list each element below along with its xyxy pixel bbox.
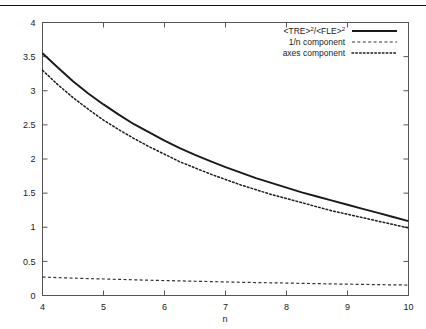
x-tick-label: 8: [284, 302, 289, 312]
x-tick-label: 6: [162, 302, 167, 312]
page-top-divider: [0, 5, 426, 6]
line-chart: 00.511.522.533.54 45678910 n <TRE>2/<FLE…: [0, 10, 426, 329]
y-tick-label: 4: [30, 18, 35, 28]
y-tick-label: 1: [30, 222, 35, 232]
legend-label-axes-component: axes component: [283, 48, 346, 58]
x-axis-title: n: [222, 314, 227, 324]
y-tick-label: 3.5: [23, 52, 36, 62]
y-tick-label: 2.5: [23, 120, 36, 130]
legend-label-tre-fle-ratio: <TRE>2/<FLE>2: [283, 26, 345, 36]
legend-tre-base: <TRE>: [283, 26, 310, 36]
legend-label-1-over-n-component: 1/n component: [289, 37, 346, 47]
legend-tre-mid: /<FLE>: [314, 26, 342, 36]
x-tick-label: 10: [403, 302, 413, 312]
chart-figure: 00.511.522.533.54 45678910 n <TRE>2/<FLE…: [0, 10, 426, 329]
y-tick-label: 0.5: [23, 257, 36, 267]
y-tick-label: 3: [30, 86, 35, 96]
x-tick-label: 7: [223, 302, 228, 312]
x-tick-label: 9: [345, 302, 350, 312]
x-tick-label: 4: [40, 302, 45, 312]
y-tick-label: 0: [30, 291, 35, 301]
y-tick-label: 1.5: [23, 188, 36, 198]
chart-legend: <TRE>2/<FLE>2 1/n component axes compone…: [283, 26, 397, 58]
chart-background: [0, 10, 426, 329]
x-tick-label: 5: [101, 302, 106, 312]
y-tick-label: 2: [30, 154, 35, 164]
